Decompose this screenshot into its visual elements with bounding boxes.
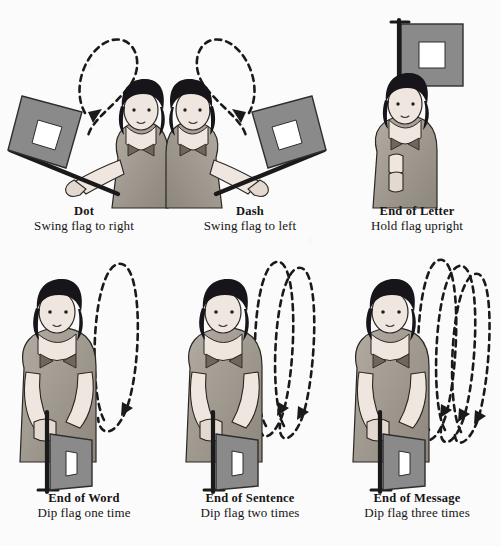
illustration-end-of-sentence: [166, 250, 334, 495]
signal-flag: [8, 96, 82, 168]
panel-dash: Dash Swing flag to left: [166, 8, 334, 240]
illustration-end-of-letter: [333, 8, 501, 208]
panel-title: End of Sentence: [166, 491, 334, 505]
panel-end-of-sentence: End of Sentence Dip flag two times: [166, 250, 334, 520]
panel-title: End of Word: [0, 491, 168, 505]
panel-subtitle: Dip flag three times: [333, 505, 501, 520]
panel-dot: Dot Swing flag to right: [0, 8, 168, 240]
signal-chart-sheet: Dot Swing flag to right: [0, 0, 501, 546]
signal-flag: [216, 434, 258, 490]
panel-title: Dot: [0, 204, 168, 218]
panel-title: End of Message: [333, 491, 501, 505]
signal-flag: [383, 434, 425, 490]
panel-subtitle: Swing flag to right: [0, 218, 168, 233]
illustration-end-of-message: [333, 250, 501, 495]
illustration-end-of-word: [0, 250, 168, 495]
panel-title: End of Letter: [333, 204, 501, 218]
panel-subtitle: Dip flag one time: [0, 505, 168, 520]
panel-end-of-letter: End of Letter Hold flag upright: [333, 8, 501, 240]
panel-title: Dash: [166, 204, 334, 218]
panel-end-of-message: End of Message Dip flag three times: [333, 250, 501, 520]
illustration-dash: [166, 8, 334, 208]
motion-path-icon: [95, 264, 138, 432]
panel-end-of-word: End of Word Dip flag one time: [0, 250, 168, 520]
figure-girl: [373, 73, 437, 208]
panel-subtitle: Dip flag two times: [166, 505, 334, 520]
panel-subtitle: Hold flag upright: [333, 218, 501, 233]
signal-flag: [50, 434, 92, 490]
signal-flag: [252, 96, 326, 168]
panel-subtitle: Swing flag to left: [166, 218, 334, 233]
illustration-dot: [0, 8, 168, 208]
